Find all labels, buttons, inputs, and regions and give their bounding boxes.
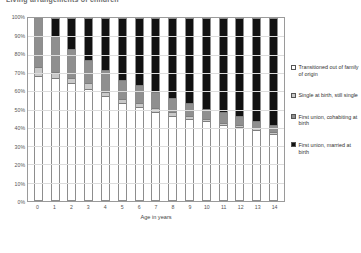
bar-segment bbox=[119, 19, 126, 81]
bar-segment bbox=[203, 110, 210, 121]
gridline bbox=[28, 183, 284, 184]
bar-segment bbox=[220, 126, 227, 200]
x-axis-tick-label: 2 bbox=[63, 204, 80, 214]
legend-item[interactable]: First union, married at birth bbox=[291, 142, 361, 155]
y-axis-tick-label: 20% bbox=[0, 162, 25, 168]
bar-segment bbox=[270, 135, 277, 200]
bar-segment bbox=[52, 19, 59, 37]
bar-segment bbox=[119, 104, 126, 200]
x-axis-tick-label: 0 bbox=[29, 204, 46, 214]
x-axis-tick-label: 14 bbox=[266, 204, 283, 214]
gridline bbox=[28, 55, 284, 56]
x-axis-tick-label: 1 bbox=[46, 204, 63, 214]
legend-label: Transitioned out of family of origin bbox=[299, 64, 361, 77]
x-axis-tick-label: 8 bbox=[165, 204, 182, 214]
gridline bbox=[28, 73, 284, 74]
y-axis-tick-label: 80% bbox=[0, 51, 25, 57]
x-axis-tick-label: 13 bbox=[249, 204, 266, 214]
bar-segment bbox=[220, 19, 227, 113]
bar-segment bbox=[102, 19, 109, 71]
y-axis-tick-label: 70% bbox=[0, 70, 25, 76]
legend-swatch-icon bbox=[291, 142, 296, 147]
bar-segment bbox=[169, 19, 176, 99]
bar-segment bbox=[68, 19, 75, 50]
bar-segment bbox=[136, 108, 143, 200]
gridline bbox=[28, 164, 284, 165]
legend-swatch-icon bbox=[291, 93, 296, 98]
legend-item[interactable]: Transitioned out of family of origin bbox=[291, 64, 361, 77]
bar-segment bbox=[152, 19, 159, 93]
y-axis-tick-label: 30% bbox=[0, 144, 25, 150]
bar-segment bbox=[203, 122, 210, 200]
bar-segment bbox=[102, 97, 109, 200]
y-axis-tick-label: 90% bbox=[0, 33, 25, 39]
y-axis-labels: 100%90%80%70%60%50%40%30%20%10%0% bbox=[0, 12, 25, 207]
x-axis-tick-label: 11 bbox=[215, 204, 232, 214]
bar-segment bbox=[253, 19, 260, 122]
x-axis-title: Age in years bbox=[27, 214, 285, 220]
x-axis-tick-label: 5 bbox=[114, 204, 131, 214]
x-axis-tick-label: 7 bbox=[148, 204, 165, 214]
legend-label: Single at birth, still single bbox=[299, 92, 358, 99]
x-axis-tick-label: 10 bbox=[198, 204, 215, 214]
bar-segment bbox=[236, 117, 243, 126]
bar-segment bbox=[169, 117, 176, 200]
legend-label: First union, cohabiting at birth bbox=[299, 114, 361, 127]
bar-segment bbox=[35, 77, 42, 200]
y-axis-tick-label: 40% bbox=[0, 125, 25, 131]
bar-segment bbox=[253, 131, 260, 200]
legend-swatch-icon bbox=[291, 114, 296, 119]
gridline bbox=[28, 146, 284, 147]
bar-segment bbox=[236, 19, 243, 117]
y-axis-tick-label: 100% bbox=[0, 14, 25, 20]
x-axis-tick-label: 9 bbox=[181, 204, 198, 214]
legend-item[interactable]: First union, cohabiting at birth bbox=[291, 114, 361, 127]
legend-label: First union, married at birth bbox=[299, 142, 361, 155]
bar-segment bbox=[35, 19, 42, 68]
x-axis-tick-label: 12 bbox=[232, 204, 249, 214]
chart-legend: Transitioned out of family of originSing… bbox=[291, 64, 361, 170]
y-axis-tick-label: 10% bbox=[0, 181, 25, 187]
x-axis-tick-label: 3 bbox=[80, 204, 97, 214]
x-axis-tick-label: 6 bbox=[131, 204, 148, 214]
y-axis-tick-label: 60% bbox=[0, 88, 25, 94]
y-axis-tick-label: 50% bbox=[0, 107, 25, 113]
bar-segment bbox=[152, 93, 159, 109]
legend-item[interactable]: Single at birth, still single bbox=[291, 92, 361, 99]
gridline bbox=[28, 128, 284, 129]
bar-segment bbox=[102, 71, 109, 93]
chart-container: Living arrangements of children 100%90%8… bbox=[0, 0, 361, 253]
x-axis-tick-label: 4 bbox=[97, 204, 114, 214]
gridline bbox=[28, 91, 284, 92]
y-axis-tick-label: 0% bbox=[0, 199, 25, 205]
x-axis-labels: 01234567891011121314 bbox=[27, 204, 285, 214]
bar-segment bbox=[186, 120, 193, 200]
chart-title: Living arrangements of children bbox=[6, 0, 256, 6]
legend-swatch-icon bbox=[291, 65, 296, 70]
gridline bbox=[28, 36, 284, 37]
bar-segment bbox=[203, 19, 210, 110]
gridline bbox=[28, 110, 284, 111]
bar-segment bbox=[136, 19, 143, 86]
bar-segment bbox=[136, 86, 143, 104]
bar-segment bbox=[169, 99, 176, 113]
plot-area bbox=[27, 17, 285, 202]
bar-segment bbox=[152, 113, 159, 200]
bar-segment bbox=[220, 113, 227, 124]
